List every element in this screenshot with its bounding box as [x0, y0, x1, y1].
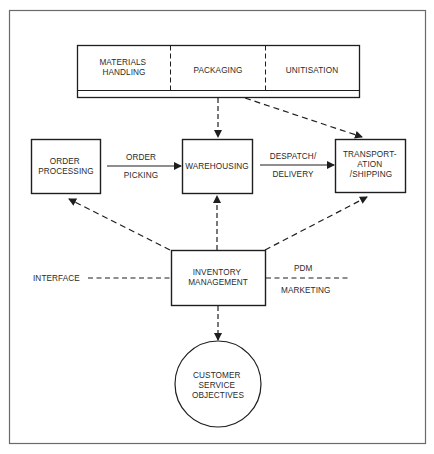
top-functions-bar: MATERIALS HANDLING PACKAGING UNITISATION	[78, 46, 360, 98]
customer-service-node: CUSTOMER SERVICE OBJECTIVES	[175, 341, 261, 427]
svg-text:DESPATCH/: DESPATCH/	[270, 152, 317, 161]
svg-text:WAREHOUSING: WAREHOUSING	[185, 162, 249, 171]
order-picking-edge: ORDER PICKING	[107, 153, 181, 180]
svg-text:ORDER: ORDER	[126, 153, 156, 162]
warehousing-node: WAREHOUSING	[183, 140, 253, 194]
materials-handling-label: MATERIALS HANDLING	[99, 58, 148, 77]
despatch-delivery-edge: DESPATCH/ DELIVERY	[260, 152, 334, 179]
inventory-management-node: INVENTORY MANAGEMENT	[172, 251, 266, 306]
order-processing-node: ORDER PROCESSING	[32, 140, 101, 194]
svg-text:INVENTORY MANAGEMENT: INVENTORY MANAGEMENT	[188, 268, 248, 287]
inventory-to-transportation-arrow	[265, 197, 367, 250]
inventory-to-order-processing-arrow	[69, 199, 170, 250]
svg-text:PDM: PDM	[294, 264, 313, 273]
unitisation-label: UNITISATION	[286, 66, 338, 75]
svg-text:INTERFACE: INTERFACE	[33, 274, 80, 283]
svg-text:DELIVERY: DELIVERY	[272, 170, 314, 179]
svg-text:MARKETING: MARKETING	[281, 286, 331, 295]
transportation-node: TRANSPORT- ATION /SHIPPING	[336, 140, 406, 193]
packaging-label: PACKAGING	[194, 66, 243, 75]
svg-text:PICKING: PICKING	[124, 171, 158, 180]
interface-link: INTERFACE	[33, 274, 171, 283]
logistics-diagram: MATERIALS HANDLING PACKAGING UNITISATION…	[0, 0, 434, 454]
top-to-transportation-arrow	[245, 98, 362, 137]
pdm-marketing-link: PDM MARKETING	[266, 264, 348, 295]
svg-text:CUSTOMER SERVICE O: CUSTOMER SERVICE OBJECTIVES	[192, 371, 244, 400]
